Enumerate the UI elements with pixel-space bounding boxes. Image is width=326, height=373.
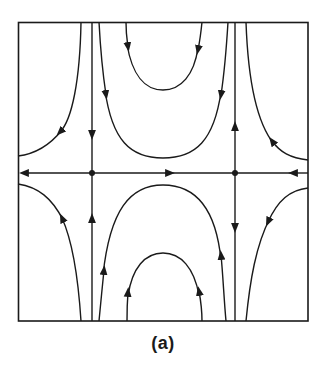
trajectory-bottom-outer-arch-right (221, 255, 226, 321)
trajectory-top-left (60, 22, 81, 132)
trajectory-bottom-outer-arch (103, 185, 221, 275)
trajectory-top-left-rest (18, 130, 62, 156)
plot-frame (19, 23, 309, 322)
trajectory-bottom-right (268, 188, 308, 222)
right-saddle-point (232, 170, 238, 176)
trajectory-bottom-left (62, 218, 81, 321)
trajectory-top-right (272, 141, 308, 160)
figure-caption: (a) (0, 333, 326, 354)
trajectory-top-right-rest (246, 22, 274, 144)
trajectory-top-outer-u (105, 90, 221, 158)
trajectory-bottom-left-rest (18, 184, 63, 220)
trajectory-top-outer-u-left (99, 22, 106, 95)
trajectory-bottom-inner-arch-right (199, 291, 202, 321)
trajectory-bottom-outer-arch-left (99, 270, 104, 321)
trajectory-top-inner-u (127, 44, 198, 90)
phase-portrait-diagram (0, 0, 326, 373)
trajectory-bottom-right-rest (246, 218, 270, 321)
trajectory-top-outer-u-right (221, 22, 228, 95)
trajectory-bottom-inner-arch (128, 253, 199, 296)
trajectory-bottom-inner-arch-left (127, 292, 128, 321)
left-saddle-point (89, 170, 95, 176)
trajectory-top-inner-u-right (198, 22, 202, 50)
trajectory-top-inner-u-left (126, 22, 128, 47)
